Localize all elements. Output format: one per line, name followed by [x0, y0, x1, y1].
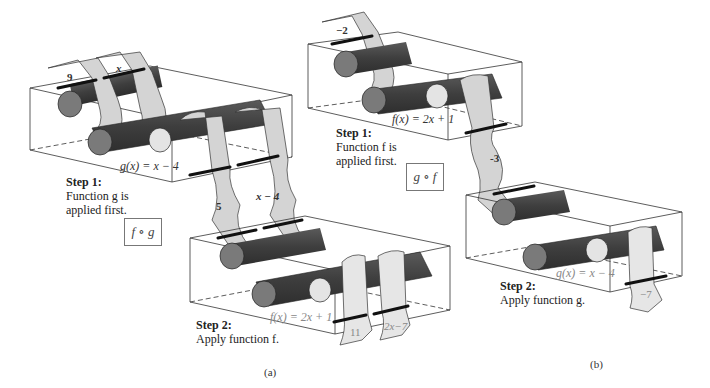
step1-block-b: Step 1: Function f is applied first. [336, 126, 397, 168]
step1-desc-line1-a: Function g is [66, 189, 129, 203]
composition-box-g-of-f: g ∘ f [406, 163, 444, 191]
step1-desc-line1-b: Function f is [336, 140, 397, 154]
step1-desc-line2-a: applied first. [66, 203, 129, 217]
function-label-f-a: f(x) = 2x + 1 [270, 310, 332, 325]
strip-label-input-var-a: x [116, 62, 122, 74]
step2-title-a: Step 2: [196, 318, 279, 332]
strip-label-middle-value-b: -3 [490, 152, 499, 164]
function-label-f-b: f(x) = 2x + 1 [392, 112, 454, 127]
strip-label-output-value-a: 11 [350, 326, 361, 338]
step1-title-b: Step 1: [336, 126, 397, 140]
strip-label-output-value-b: −7 [640, 288, 652, 300]
step2-desc-b: Apply function g. [500, 293, 585, 307]
step1-desc-line2-b: applied first. [336, 154, 397, 168]
panel-caption-a: (a) [264, 366, 276, 378]
step2-block-a: Step 2: Apply function f. [196, 318, 279, 346]
step1-block-a: Step 1: Function g is applied first. [66, 175, 129, 217]
strip-middle-neg3 [460, 75, 515, 218]
composition-box-f-of-g: f ∘ g [124, 218, 162, 246]
step2-desc-a: Apply function f. [196, 332, 279, 346]
step2-title-b: Step 2: [500, 279, 585, 293]
strip-label-input-value-a: 9 [67, 71, 73, 83]
step1-title-a: Step 1: [66, 175, 129, 189]
strip-label-output-var-a: 2x−7 [384, 320, 407, 332]
strip-label-middle-var-a: x − 4 [256, 190, 279, 202]
strip-label-middle-value-a: 5 [216, 200, 222, 212]
composition-label-b: g ∘ f [414, 169, 437, 185]
composition-label-a: f ∘ g [132, 224, 155, 240]
function-label-g-a: g(x) = x − 4 [120, 159, 179, 174]
step2-block-b: Step 2: Apply function g. [500, 279, 585, 307]
panel-caption-b: (b) [590, 358, 603, 370]
strip-label-input-value-b: −2 [336, 24, 348, 36]
